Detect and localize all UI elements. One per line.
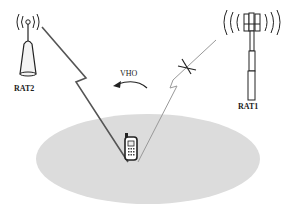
rat2-label: RAT2	[14, 84, 34, 93]
coverage-area	[36, 114, 260, 204]
vho-arrow-icon	[113, 81, 147, 88]
vho-label: VHO	[120, 69, 137, 78]
mobile-phone-icon	[125, 133, 137, 160]
rat1-cell-tower-icon	[224, 10, 280, 100]
rat1-label: RAT1	[238, 102, 258, 111]
rat2-access-point-icon	[17, 14, 39, 76]
